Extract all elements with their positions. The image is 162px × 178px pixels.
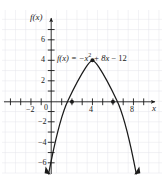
y-tick-label-4: 4 xyxy=(41,56,45,64)
x-tick-label--2: −2 xyxy=(26,106,35,114)
x-tick-label-8: 8 xyxy=(130,106,134,114)
curve-arrowheads xyxy=(45,167,141,175)
y-tick-label--2: −2 xyxy=(38,118,47,126)
parabola-curve xyxy=(49,61,137,174)
y-tick-label--6: −6 xyxy=(38,159,47,167)
x-tick-label-0: 0 xyxy=(44,104,48,112)
equation-term3: − 12 xyxy=(109,53,127,63)
equation-lhs: f(x) = xyxy=(57,53,79,63)
equation-annotation: f(x) = −x2 + 8x − 12 xyxy=(57,52,127,62)
x-axis-label: x xyxy=(152,104,156,113)
y-tick-label--4: −4 xyxy=(38,139,47,147)
equation-term2: + 8x xyxy=(91,53,109,63)
root-point-left xyxy=(70,100,74,104)
x-tick-label-4: 4 xyxy=(89,106,93,114)
y-tick-label-6: 6 xyxy=(41,36,45,44)
coordinate-plane xyxy=(0,0,162,178)
root-point-right xyxy=(111,100,115,104)
y-axis-label: f(x) xyxy=(30,13,43,22)
y-tick-label-2: 2 xyxy=(41,77,45,85)
grid-lines xyxy=(2,10,162,173)
equation-term1: −x xyxy=(79,53,89,63)
graph-figure: f(x) x f(x) = −x2 + 8x − 12 −2 0 4 8 6 4… xyxy=(0,0,162,178)
